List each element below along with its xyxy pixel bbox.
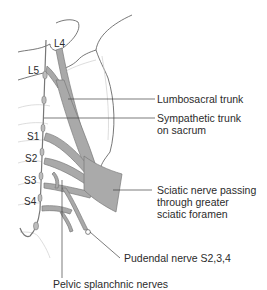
callout-sympathetic-trunk: Sympathetic trunk on sacrum [157, 112, 241, 136]
callout-sympathetic-line-1: Sympathetic trunk [157, 112, 241, 124]
label-s2: S2 [25, 153, 37, 164]
label-s3: S3 [24, 175, 36, 186]
callout-lumbosacral-line-1: Lumbosacral trunk [157, 93, 243, 105]
label-s4: S4 [24, 196, 36, 207]
callout-sciatic-line-1: Sciatic nerve passing [157, 184, 256, 196]
nerve-bundles [42, 48, 122, 232]
anatomy-illustration [0, 0, 267, 290]
label-l4: L4 [54, 38, 65, 49]
callout-pelvic-line-1: Pelvic splanchnic nerves [53, 278, 168, 290]
callout-pudendal-line-1: Pudendal nerve S2,3,4 [124, 252, 231, 264]
callout-sympathetic-line-2: on sacrum [157, 124, 241, 136]
callout-pelvic-splanchnic: Pelvic splanchnic nerves [53, 278, 168, 290]
callout-pudendal-nerve: Pudendal nerve S2,3,4 [124, 252, 231, 264]
pudendal-end-marker [86, 230, 91, 235]
callout-sciatic-line-2: through greater [157, 196, 256, 208]
callout-sciatic-line-3: sciatic foramen [157, 208, 256, 220]
label-s1: S1 [27, 131, 39, 142]
label-l5: L5 [28, 65, 39, 76]
callout-sciatic-nerve: Sciatic nerve passing through greater sc… [157, 184, 256, 220]
callout-lumbosacral-trunk: Lumbosacral trunk [157, 93, 243, 105]
